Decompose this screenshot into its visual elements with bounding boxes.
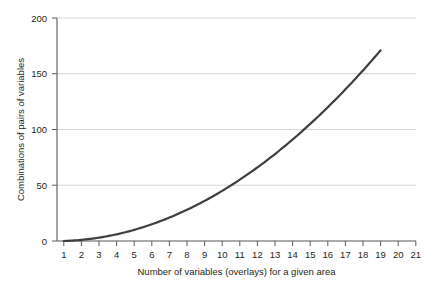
x-tick-label: 16 xyxy=(323,249,334,260)
x-tick-label: 6 xyxy=(149,249,154,260)
x-axis-tick-labels: 1 2 3 4 5 6 7 8 9 10 11 12 13 14 15 16 1… xyxy=(61,249,421,260)
x-tick-label: 10 xyxy=(217,249,228,260)
y-axis-title: Combinations of pairs of variables xyxy=(15,58,26,201)
y-tick-label: 150 xyxy=(31,68,47,79)
x-tick-label: 7 xyxy=(167,249,172,260)
x-tick-label: 8 xyxy=(184,249,189,260)
x-tick-label: 14 xyxy=(287,249,298,260)
x-tick-label: 13 xyxy=(270,249,281,260)
x-tick-label: 15 xyxy=(305,249,316,260)
x-tick-label: 19 xyxy=(375,249,386,260)
x-tick-label: 17 xyxy=(340,249,351,260)
x-tick-label: 1 xyxy=(61,249,66,260)
y-tick-label: 200 xyxy=(31,13,47,24)
x-tick-label: 21 xyxy=(411,249,422,260)
x-tick-label: 20 xyxy=(393,249,404,260)
y-tick-label: 50 xyxy=(36,180,47,191)
x-axis-title: Number of variables (overlays) for a giv… xyxy=(137,266,336,277)
x-tick-label: 3 xyxy=(96,249,101,260)
x-tick-label: 5 xyxy=(132,249,137,260)
y-tick-label: 100 xyxy=(31,124,47,135)
combinations-line-chart: 200 150 100 50 0 xyxy=(0,0,436,291)
x-tick-label: 18 xyxy=(358,249,369,260)
x-axis-ticks xyxy=(64,241,416,246)
y-tick-label: 0 xyxy=(42,236,47,247)
x-tick-label: 4 xyxy=(114,249,119,260)
x-tick-label: 12 xyxy=(252,249,263,260)
x-tick-label: 9 xyxy=(202,249,207,260)
chart-page: 200 150 100 50 0 xyxy=(0,0,436,291)
chart-background xyxy=(0,0,436,291)
x-tick-label: 2 xyxy=(79,249,84,260)
x-tick-label: 11 xyxy=(235,249,245,260)
